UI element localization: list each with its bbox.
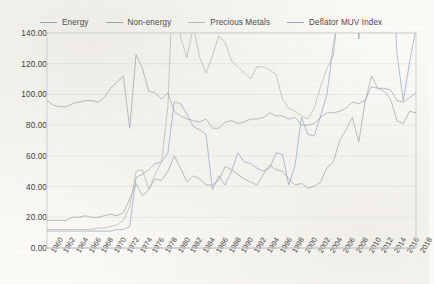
plot-frame xyxy=(47,33,416,248)
series-line-deflator-muv-index xyxy=(47,55,416,129)
series-line-non-energy xyxy=(47,76,416,220)
series-line-precious-metals xyxy=(47,0,416,230)
series-line-energy xyxy=(47,0,416,231)
